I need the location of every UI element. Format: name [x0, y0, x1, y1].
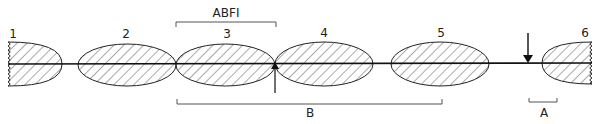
label-segment-5: 5	[437, 26, 445, 40]
label-abfi: ABFI	[213, 6, 240, 20]
a-bracket	[529, 98, 557, 102]
label-a: A	[540, 106, 549, 120]
segmented-diagram: 1 2 3 4 5 6 ABFI B A	[0, 0, 599, 124]
label-segment-2: 2	[122, 27, 130, 41]
main-axis-line	[8, 63, 592, 64]
label-segment-1: 1	[9, 27, 17, 41]
label-segment-4: 4	[320, 26, 328, 40]
label-segment-6: 6	[581, 26, 589, 40]
down-arrow-icon	[523, 33, 533, 63]
segment-3	[176, 44, 275, 86]
label-b: B	[306, 106, 314, 120]
label-segment-3: 3	[223, 27, 231, 41]
b-bracket	[177, 99, 442, 104]
segment-2	[78, 44, 176, 86]
